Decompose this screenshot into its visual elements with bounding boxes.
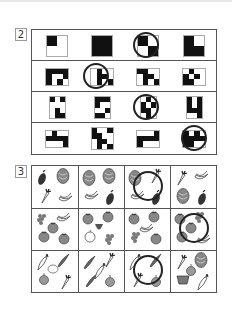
filled-square — [47, 36, 57, 46]
filled-square — [194, 46, 204, 56]
daikon-icon — [93, 263, 108, 280]
strawberry-icon — [93, 221, 108, 238]
cabbage-icon — [102, 168, 117, 185]
empty-square — [57, 36, 67, 46]
picture-cell[interactable] — [124, 250, 171, 292]
picture-cell[interactable] — [124, 208, 171, 251]
question-number-3: 3 — [15, 165, 27, 178]
filled-square — [107, 144, 112, 149]
pattern-tile[interactable] — [183, 35, 205, 57]
pattern-tile[interactable] — [45, 68, 69, 86]
picture-grid — [31, 165, 217, 293]
pattern-grid — [31, 29, 217, 155]
filled-square — [92, 36, 102, 46]
picture-cell[interactable] — [78, 250, 125, 292]
empty-square — [57, 46, 67, 56]
filled-square — [60, 113, 65, 118]
pattern-tile[interactable] — [186, 96, 203, 119]
scan-edge-band — [0, 0, 232, 2]
filled-square — [63, 141, 69, 146]
answer-circle-mark — [179, 213, 209, 243]
empty-square — [194, 36, 204, 46]
bananas-icon — [58, 190, 73, 207]
empty-square — [105, 113, 110, 118]
eggplant-icon — [196, 190, 211, 207]
pattern-tile[interactable] — [91, 35, 113, 57]
filled-square — [102, 36, 112, 46]
filled-square — [197, 113, 202, 118]
picture-cell[interactable] — [32, 208, 79, 251]
bananas-icon — [139, 221, 154, 238]
cabbage-icon — [82, 170, 97, 187]
picture-cell[interactable] — [170, 208, 216, 251]
onion-icon — [185, 263, 200, 280]
picture-cell[interactable] — [32, 250, 79, 292]
filled-square — [184, 46, 194, 56]
answer-circle-mark — [83, 63, 109, 89]
picture-cell[interactable] — [170, 166, 216, 209]
eggplant-icon — [36, 170, 51, 187]
pattern-row-3 — [32, 92, 216, 123]
picture-cell[interactable] — [170, 250, 216, 292]
pattern-row-1 — [32, 30, 216, 61]
empty-square — [47, 46, 57, 56]
question-number-2: 2 — [15, 28, 27, 41]
filled-square — [184, 36, 194, 46]
filled-square — [92, 46, 102, 56]
bananas-icon — [194, 168, 209, 185]
pattern-tile[interactable] — [46, 35, 68, 57]
cabbage-icon — [56, 168, 71, 185]
tomato-icon — [47, 221, 62, 238]
empty-square — [200, 79, 206, 84]
carrot-icon — [38, 188, 53, 205]
picture-cell[interactable] — [78, 166, 125, 209]
pattern-tile[interactable] — [182, 68, 206, 86]
pattern-tile[interactable] — [94, 96, 111, 119]
picture-cell[interactable] — [32, 166, 79, 209]
answer-circle-mark — [133, 255, 163, 285]
answer-circle-mark — [133, 171, 163, 201]
cabbage-icon — [176, 188, 191, 205]
pattern-tile[interactable] — [49, 96, 66, 119]
picture-cell[interactable] — [124, 166, 171, 209]
pattern-tile[interactable] — [136, 68, 160, 86]
potato-icon — [47, 263, 62, 280]
answer-circle-mark — [133, 32, 159, 58]
bananas-icon — [84, 188, 99, 205]
empty-square — [63, 79, 69, 84]
filled-square — [154, 79, 160, 84]
pattern-tile[interactable] — [91, 127, 114, 150]
empty-square — [154, 141, 160, 146]
answer-circle-mark — [133, 94, 159, 120]
pattern-tile[interactable] — [136, 130, 160, 148]
pattern-row-4 — [32, 123, 216, 154]
eggplant-icon — [104, 190, 119, 207]
filled-square — [102, 46, 112, 56]
picture-cell[interactable] — [78, 208, 125, 251]
pattern-row-2 — [32, 61, 216, 92]
pattern-tile[interactable] — [45, 130, 69, 148]
answer-circle-mark — [181, 125, 207, 151]
carrot-icon — [174, 170, 189, 187]
